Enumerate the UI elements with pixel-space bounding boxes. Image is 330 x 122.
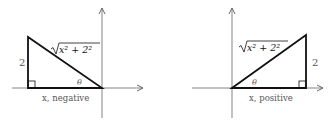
left-right-angle-marker (28, 81, 35, 88)
right-diagram: 2 θ x, positive x² + 2² (192, 8, 323, 118)
left-vertical-label: 2 (19, 57, 25, 68)
left-diagram: 2 θ x, negative x² + 2² (12, 8, 143, 118)
right-vertical-label: 2 (312, 57, 318, 68)
right-horizontal-label: x, positive (249, 93, 293, 103)
left-hypotenuse-label: x² + 2² (59, 44, 92, 55)
triangle-diagrams: 2 θ x, negative x² + 2² 2 θ x, positive … (0, 0, 330, 122)
left-horizontal-label: x, negative (42, 93, 89, 103)
left-angle-label: θ (77, 78, 82, 87)
right-right-angle-marker (299, 81, 306, 88)
right-angle-label: θ (252, 78, 257, 87)
right-hypotenuse-label: x² + 2² (247, 42, 280, 53)
